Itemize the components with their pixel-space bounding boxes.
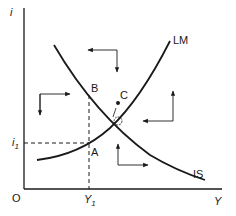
point-c-label: C xyxy=(120,89,128,101)
point-b-label: B xyxy=(91,82,98,94)
is-lm-diagram: i Y O IS LM i1 Y1 A B C xyxy=(0,0,236,216)
lm-curve-label: LM xyxy=(173,34,188,46)
y1-label: Y1 xyxy=(84,193,96,208)
lm-curve xyxy=(37,41,170,160)
point-c-dot xyxy=(116,101,120,105)
i1-label: i1 xyxy=(12,136,19,151)
is-curve-label: IS xyxy=(193,168,203,180)
origin-label: O xyxy=(12,192,21,204)
arrow-left-right xyxy=(40,94,70,115)
is-curve xyxy=(54,45,205,180)
x-axis-label: Y xyxy=(214,195,222,207)
point-a-label: A xyxy=(91,146,99,158)
c-to-equilibrium-line xyxy=(113,108,116,117)
y-axis-label: i xyxy=(10,6,13,18)
